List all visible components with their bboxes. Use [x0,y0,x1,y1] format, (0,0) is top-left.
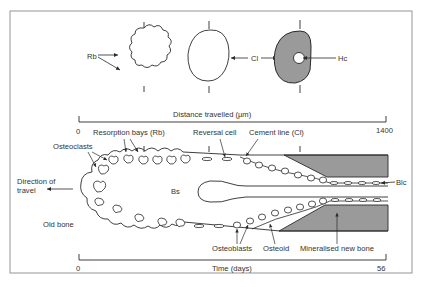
osteoblasts-label: Osteoblasts [212,244,252,253]
time-axis-end: 56 [377,264,385,273]
distance-axis-title: Distance travelled (µm) [173,110,252,119]
hc-label: Hc [338,54,347,63]
blc-label: Blc [396,178,407,187]
cl-label-group: Cl [231,54,277,63]
rb-label-group: Rb [87,52,120,70]
distance-axis-end: 1400 [376,126,393,135]
bs-label: Bs [171,187,180,196]
bone-remodeling-diagram: Rb Cl Hc Distance travelled (µm) 0 1400 [0,0,425,287]
osteoclasts-label: Osteoclasts [53,142,93,151]
cross-section-completed-osteon [274,20,311,93]
time-axis: 0 Time (days) 56 [76,254,386,273]
resorption-bays-label: Resorption bays (Rb) [93,128,165,137]
direction-of-travel-label-line2: travel [17,186,36,195]
mineralised-bone-lower [279,205,388,231]
osteoid-label: Osteoid [263,244,289,253]
old-bone-label: Old bone [43,220,74,229]
time-axis-title: Time (days) [212,264,252,273]
distance-axis-start: 0 [76,127,80,136]
reversal-cell-label: Reversal cell [193,128,237,137]
cross-section-reversal [188,21,229,93]
osteoclasts-lower [95,198,185,227]
time-axis-start: 0 [76,264,80,273]
direction-of-travel-label-line1: Direction of [17,177,56,186]
rb-label: Rb [87,52,97,61]
cross-section-resorption [130,22,172,92]
haversian-canal [294,53,305,64]
cl-label: Cl [251,54,258,63]
cement-line-label: Cement line (Cl) [249,128,304,137]
mineralised-new-bone-label: Mineralised new bone [300,244,374,253]
